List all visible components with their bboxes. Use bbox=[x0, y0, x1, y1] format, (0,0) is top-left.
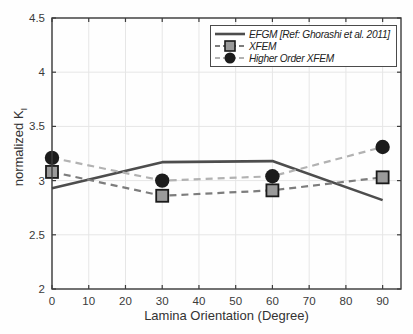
y-axis-label-subscript: I bbox=[18, 108, 29, 111]
higher-order-xfem-marker bbox=[375, 140, 389, 154]
y-tick-label: 2.5 bbox=[29, 229, 45, 241]
y-tick-label: 4.5 bbox=[29, 12, 45, 24]
xfem-marker bbox=[377, 171, 389, 183]
higher-order-xfem-line-swatch bbox=[215, 52, 245, 64]
xfem-marker bbox=[266, 184, 278, 196]
x-tick-label: 30 bbox=[156, 295, 169, 307]
legend-item-higher-order-xfem: Higher Order XFEM bbox=[215, 52, 394, 64]
x-tick-label: 60 bbox=[266, 295, 279, 307]
x-tick-label: 10 bbox=[82, 295, 95, 307]
higher-order-xfem-marker bbox=[155, 173, 169, 187]
higher-order-xfem-marker bbox=[265, 169, 279, 183]
legend: EFGM [Ref: Ghorashi et al. 2011] XFEM Hi… bbox=[210, 25, 397, 67]
x-tick-label: 90 bbox=[376, 295, 389, 307]
y-axis-label-text: normalized K bbox=[11, 110, 26, 186]
y-tick-label: 3.5 bbox=[29, 120, 45, 132]
x-tick-label: 50 bbox=[229, 295, 242, 307]
legend-item-efgm: EFGM [Ref: Ghorashi et al. 2011] bbox=[215, 28, 394, 40]
x-tick-label: 0 bbox=[49, 295, 55, 307]
legend-xfem-marker bbox=[225, 41, 235, 51]
x-axis-label: Lamina Orientation (Degree) bbox=[52, 308, 401, 323]
y-tick-label: 4 bbox=[39, 66, 46, 78]
legend-label-efgm: EFGM [Ref: Ghorashi et al. 2011] bbox=[249, 29, 390, 40]
y-axis-label: normalized KI bbox=[11, 108, 29, 187]
x-tick-label: 40 bbox=[193, 295, 206, 307]
x-tick-label: 70 bbox=[303, 295, 316, 307]
xfem-line-swatch bbox=[215, 40, 245, 52]
y-tick-label: 3 bbox=[39, 175, 45, 187]
efgm-line-swatch bbox=[215, 28, 245, 40]
legend-item-xfem: XFEM bbox=[215, 40, 394, 52]
legend-higher-order-xfem-marker bbox=[225, 53, 236, 64]
chart-figure: 010203040506070809022.533.544.5 normaliz… bbox=[0, 0, 413, 334]
x-tick-label: 20 bbox=[119, 295, 132, 307]
y-tick-label: 2 bbox=[39, 283, 45, 295]
legend-label-higher-order-xfem: Higher Order XFEM bbox=[249, 53, 334, 64]
xfem-marker bbox=[156, 190, 168, 202]
legend-label-xfem: XFEM bbox=[249, 41, 276, 52]
x-tick-label: 80 bbox=[339, 295, 352, 307]
